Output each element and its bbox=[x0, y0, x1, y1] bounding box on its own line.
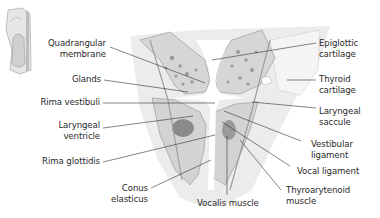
label-line: Quadrangular bbox=[18, 38, 106, 49]
label-line: ligament bbox=[311, 150, 353, 161]
label-line: Rima glottidis bbox=[10, 156, 100, 167]
label-vestibular-ligament: Vestibular ligament bbox=[311, 139, 353, 161]
label-laryngeal-ventricle: Laryngeal ventricle bbox=[10, 120, 100, 142]
label-line: Epiglottic bbox=[319, 38, 358, 49]
thyroid-cartilage-shape bbox=[270, 30, 320, 95]
label-line: Vestibular bbox=[311, 139, 353, 150]
label-line: Laryngeal bbox=[319, 106, 361, 117]
label-line: muscle bbox=[286, 196, 350, 207]
label-line: Conus bbox=[90, 183, 148, 194]
label-line: cartilage bbox=[319, 49, 358, 60]
label-rima-glottidis: Rima glottidis bbox=[10, 156, 100, 167]
label-line: Rima vestibuli bbox=[10, 97, 100, 108]
label-thyroid-cartilage: Thyroid cartilage bbox=[319, 74, 356, 96]
label-line: elasticus bbox=[90, 194, 148, 205]
label-quadrangular-membrane: Quadrangular membrane bbox=[18, 38, 106, 60]
label-line: cartilage bbox=[319, 85, 356, 96]
label-line: membrane bbox=[18, 49, 106, 60]
label-epiglottic-cartilage: Epiglottic cartilage bbox=[319, 38, 358, 60]
label-glands: Glands bbox=[18, 74, 101, 85]
label-line: Vocalis muscle bbox=[197, 198, 259, 209]
larynx-diagram: Quadrangular membrane Glands Rima vestib… bbox=[0, 0, 380, 218]
label-vocalis-muscle: Vocalis muscle bbox=[197, 198, 259, 209]
label-line: Laryngeal bbox=[10, 120, 100, 131]
label-conus-elasticus: Conus elasticus bbox=[90, 183, 148, 205]
label-rima-vestibuli: Rima vestibuli bbox=[10, 97, 100, 108]
left-thyroarytenoid-core bbox=[172, 119, 194, 137]
label-line: saccule bbox=[319, 117, 361, 128]
label-line: Thyroid bbox=[319, 74, 356, 85]
label-laryngeal-saccule: Laryngeal saccule bbox=[319, 106, 361, 128]
label-line: Glands bbox=[18, 74, 101, 85]
label-vocal-ligament: Vocal ligament bbox=[297, 166, 359, 177]
label-thyroarytenoid-muscle: Thyroarytenoid muscle bbox=[286, 185, 350, 207]
label-line: Vocal ligament bbox=[297, 166, 359, 177]
label-line: ventricle bbox=[10, 131, 100, 142]
label-line: Thyroarytenoid bbox=[286, 185, 350, 196]
